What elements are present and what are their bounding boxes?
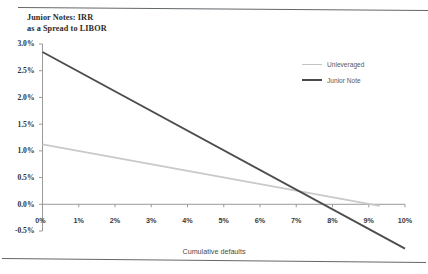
x-axis-tick-label: 3% xyxy=(136,216,166,225)
x-axis-tick-label: 4% xyxy=(173,216,203,225)
y-axis-tick-label: 2.5% xyxy=(1,66,35,75)
x-axis-tick-label: 8% xyxy=(318,216,348,225)
y-axis-tick-label: -0.5% xyxy=(1,226,35,235)
legend-item-junior-note: Junior Note xyxy=(302,72,414,88)
legend-label-junior-note: Junior Note xyxy=(327,77,361,84)
legend-swatch-icon-junior-note xyxy=(302,79,322,81)
chart-plot-area: 3.0%2.5%2.0%1.5%1.0%0.5%0.0%-0.5% 1%2%3%… xyxy=(0,0,428,274)
y-axis-tick-label: 0.5% xyxy=(1,173,35,182)
y-axis-tick-label: 0.0% xyxy=(1,200,35,209)
x-axis-title: Cumulative defaults xyxy=(0,247,428,256)
legend-label-unleveraged: Unleveraged xyxy=(327,61,364,68)
x-axis-tick-label: 10% xyxy=(390,216,420,225)
x-axis-tick-label: 6% xyxy=(245,216,275,225)
y-axis-tick-label: 2.0% xyxy=(1,93,35,102)
x-axis-tick-label: 1% xyxy=(64,216,94,225)
x-axis-tick-label: 5% xyxy=(209,216,239,225)
y-axis-tick-label: 1.5% xyxy=(1,120,35,129)
x-axis-tick-label: 7% xyxy=(281,216,311,225)
y-axis-tick-label: 1.0% xyxy=(1,146,35,155)
legend-swatch-icon-unleveraged xyxy=(302,64,322,65)
series-line-unleveraged xyxy=(43,144,380,205)
chart-legend: Unleveraged Junior Note xyxy=(302,56,414,88)
x-axis-tick-label: 2% xyxy=(100,216,130,225)
legend-item-unleveraged: Unleveraged xyxy=(302,56,414,72)
y-axis-tick-label: 3.0% xyxy=(1,39,35,48)
x-axis-tick-label: 9% xyxy=(354,216,384,225)
chart-svg xyxy=(0,0,428,274)
x-axis-origin-label: 0% xyxy=(26,216,56,225)
